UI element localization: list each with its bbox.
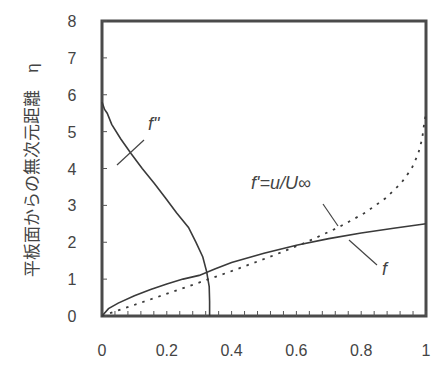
curve-fp <box>102 113 426 316</box>
x-tick-label: 0.8 <box>350 342 372 359</box>
x-tick-label: 0 <box>98 342 107 359</box>
plot-frame <box>102 21 426 316</box>
x-tick-label: 0.6 <box>285 342 307 359</box>
curve-fpp <box>102 102 210 316</box>
y-tick-labels: 012345678 <box>68 13 77 325</box>
annotation-leader-lines <box>117 140 377 265</box>
leader-line <box>323 204 338 226</box>
x-tick-label: 1 <box>422 342 431 359</box>
axis-ticks <box>102 21 426 316</box>
leader-line <box>349 240 377 265</box>
leader-line <box>117 140 144 165</box>
annotation-f-prime: f'=u/U∞ <box>251 173 311 193</box>
curve-f <box>102 224 426 316</box>
y-tick-label: 5 <box>68 124 77 141</box>
y-tick-label: 0 <box>68 308 77 325</box>
curves <box>102 102 426 316</box>
x-tick-labels: 00.20.40.60.81 <box>98 342 431 359</box>
x-tick-label: 0.4 <box>220 342 242 359</box>
y-tick-label: 1 <box>68 271 77 288</box>
y-tick-label: 7 <box>68 50 77 67</box>
annotation-f-double-prime: f" <box>148 114 161 134</box>
x-tick-label: 0.2 <box>156 342 178 359</box>
y-tick-label: 6 <box>68 87 77 104</box>
y-tick-label: 4 <box>68 161 77 178</box>
y-tick-label: 3 <box>68 197 77 214</box>
plot-border <box>102 21 426 316</box>
annotation-f: f <box>382 259 389 279</box>
y-tick-label: 8 <box>68 13 77 30</box>
blasius-profile-chart: 012345678 00.20.40.60.81 f" f'=u/U∞ f 平板… <box>0 0 443 381</box>
y-tick-label: 2 <box>68 234 77 251</box>
y-axis-label: 平板面からの無次元距離 η <box>23 63 42 276</box>
